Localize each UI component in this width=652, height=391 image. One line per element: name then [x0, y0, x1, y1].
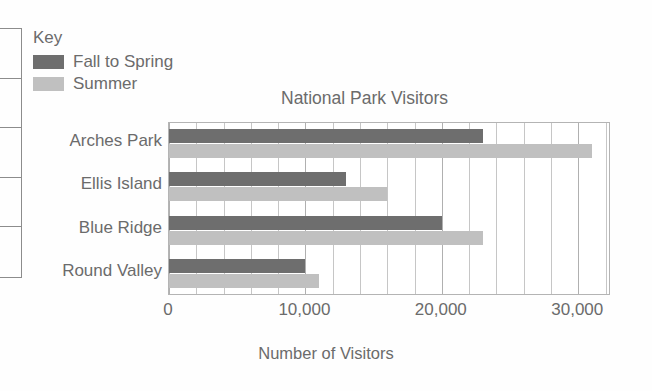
x-tick-label: 30,000 [551, 300, 603, 320]
category-label: Ellis Island [0, 174, 162, 194]
legend-item-summer: Summer [33, 73, 243, 95]
chart-page: Key Fall to Spring Summer National Park … [0, 0, 652, 391]
legend-swatch-icon [33, 77, 64, 91]
legend-label: Summer [73, 74, 137, 94]
x-axis-tick-labels: 010,00020,00030,000 [0, 300, 652, 326]
table-row [0, 29, 21, 79]
chart-title: National Park Visitors [281, 88, 448, 109]
x-tick-label: 10,000 [278, 300, 330, 320]
category-label: Blue Ridge [0, 218, 162, 238]
legend-swatch-icon [33, 55, 64, 69]
category-axis-labels: Arches ParkEllis IslandBlue RidgeRound V… [0, 122, 652, 295]
legend-label: Fall to Spring [73, 52, 173, 72]
table-row [0, 79, 21, 129]
legend-title: Key [33, 28, 243, 48]
category-label: Arches Park [0, 131, 162, 151]
category-label: Round Valley [0, 261, 162, 281]
x-axis-title: Number of Visitors [0, 344, 652, 363]
x-tick-label: 20,000 [415, 300, 467, 320]
legend-item-fall-to-spring: Fall to Spring [33, 51, 243, 73]
x-tick-label: 0 [163, 300, 172, 320]
chart-legend: Key Fall to Spring Summer [33, 28, 243, 95]
